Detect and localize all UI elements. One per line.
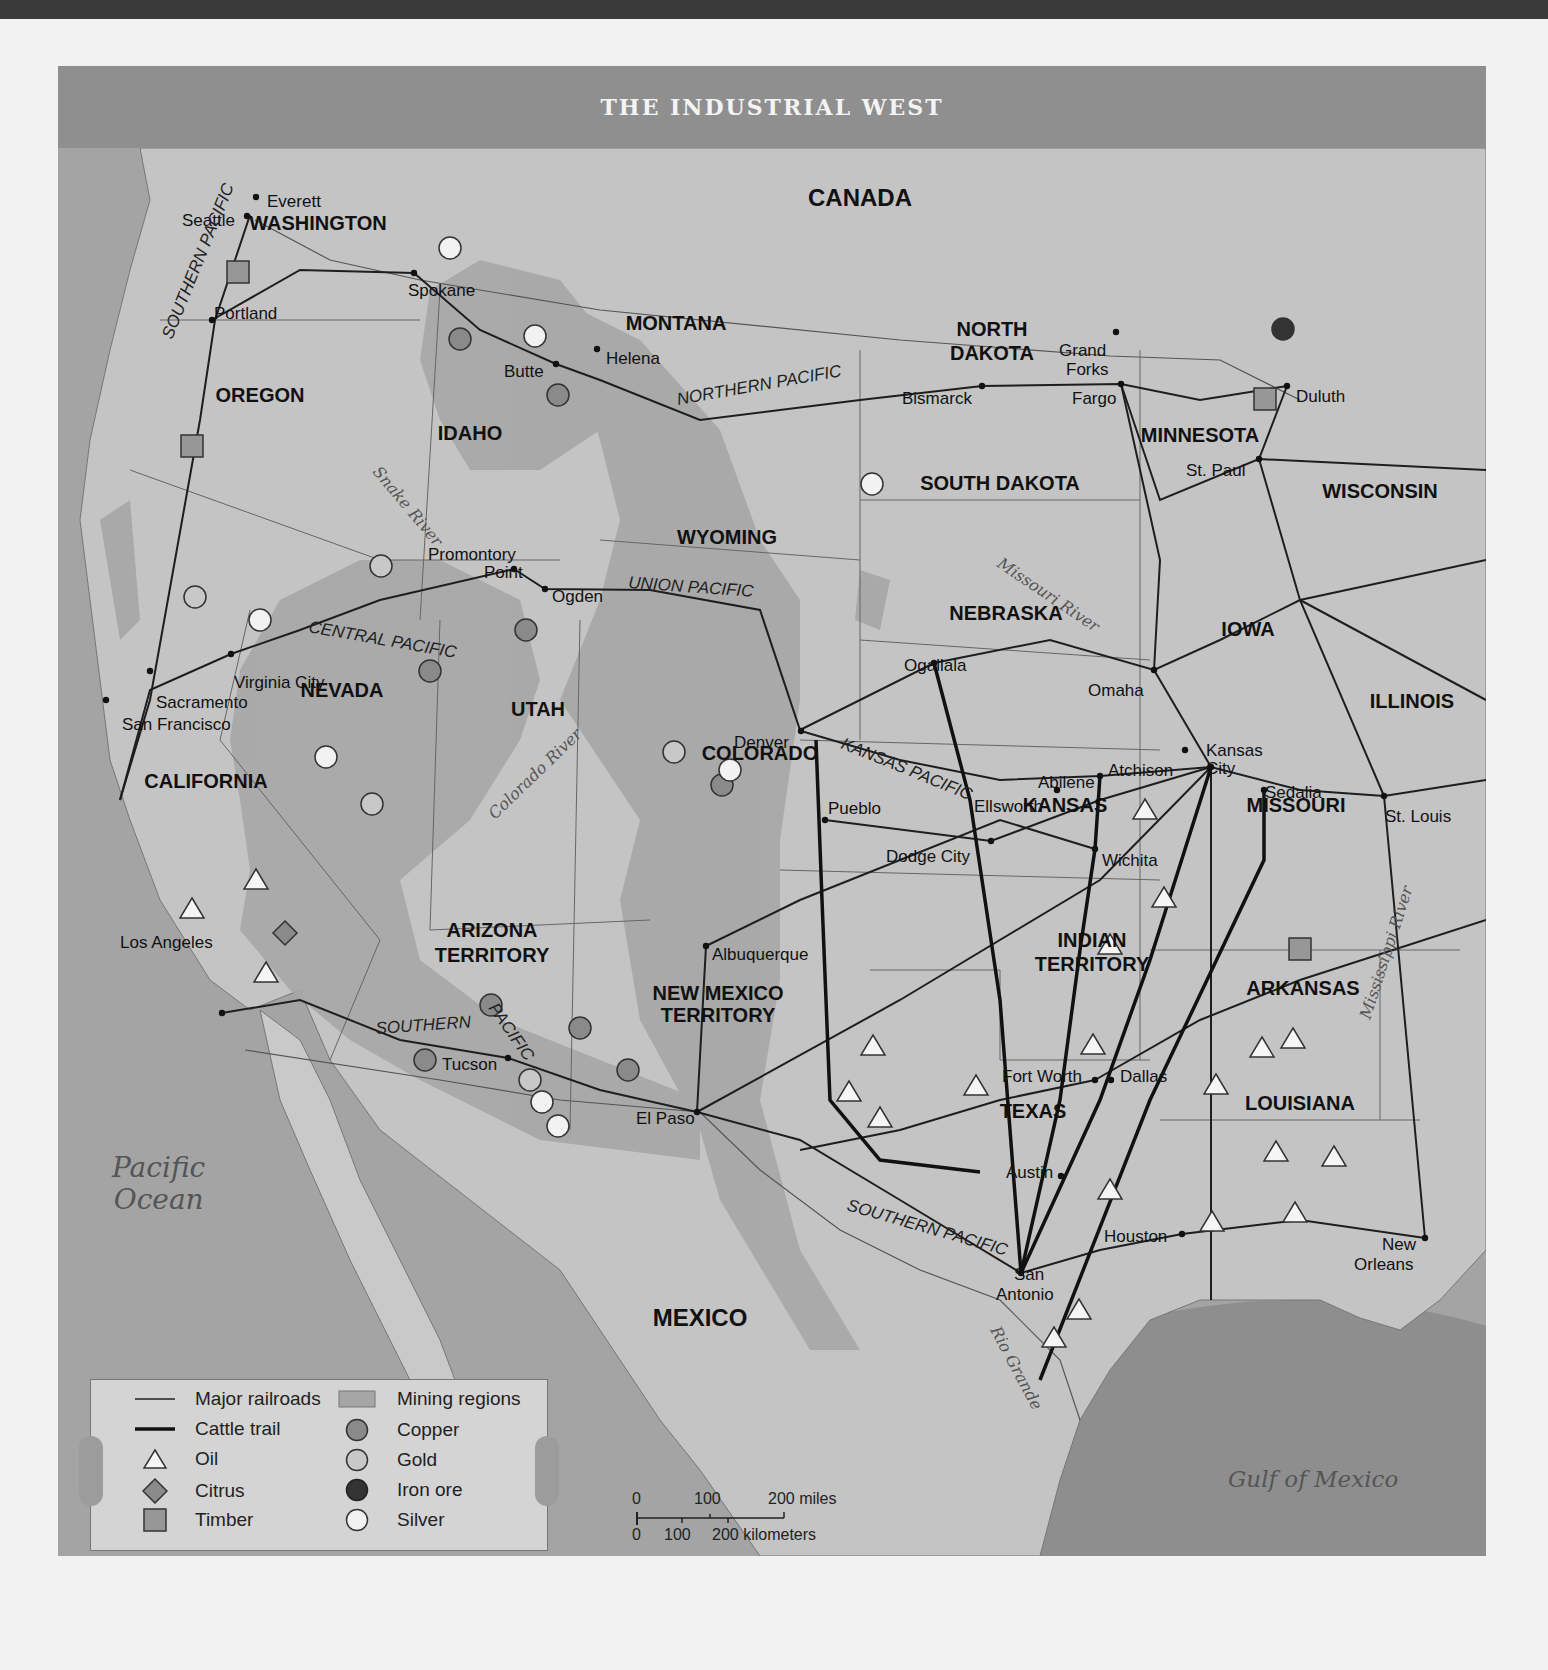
city-dot-icon: [1118, 381, 1124, 387]
gold-circle-icon: [331, 1448, 383, 1472]
city-label: Ogden: [552, 587, 603, 606]
silver-marker-icon: [547, 1115, 569, 1137]
region-label: SOUTH DAKOTA: [920, 472, 1080, 494]
map-title: THE INDUSTRIAL WEST: [600, 94, 943, 120]
city-dot-icon: [253, 194, 259, 200]
city-dot-icon: [103, 697, 109, 703]
region-label: LOUISIANA: [1245, 1092, 1355, 1114]
legend-item-gold: Gold: [331, 1448, 437, 1472]
legend-item-timber: Timber: [129, 1508, 253, 1532]
city-label: Wichita: [1102, 851, 1158, 870]
city-label: Sedalia: [1265, 783, 1322, 802]
city-label: St. Paul: [1186, 461, 1246, 480]
scale-km-100: 100: [664, 1526, 691, 1544]
legend-item-citrus: Citrus: [129, 1478, 245, 1504]
gold-marker-icon: [184, 586, 206, 608]
legend-item-iron-ore: Iron ore: [331, 1478, 462, 1502]
legend-item-cattle-trail: Cattle trail: [129, 1418, 281, 1440]
legend-label: Citrus: [195, 1480, 245, 1502]
city-label: Promontory: [428, 545, 516, 564]
copper-marker-icon: [414, 1049, 436, 1071]
city-dot-icon: [411, 270, 417, 276]
city-label: Austin: [1006, 1163, 1053, 1182]
city-label: Fargo: [1072, 389, 1116, 408]
gold-marker-icon: [361, 793, 383, 815]
region-label: TERRITORY: [435, 944, 550, 966]
mining-swatch-icon: [331, 1390, 383, 1408]
legend-label: Iron ore: [397, 1479, 462, 1501]
silver-marker-icon: [315, 746, 337, 768]
city-label: Tucson: [442, 1055, 497, 1074]
silver-marker-icon: [531, 1091, 553, 1113]
map-title-bar: THE INDUSTRIAL WEST: [58, 66, 1486, 148]
region-label: WISCONSIN: [1322, 480, 1438, 502]
region-label: CANADA: [808, 184, 912, 211]
copper-marker-icon: [419, 660, 441, 682]
legend-label: Gold: [397, 1449, 437, 1471]
city-label: Duluth: [1296, 387, 1345, 406]
iron-ore-marker-icon: [1272, 318, 1294, 340]
city-dot-icon: [228, 651, 234, 657]
city-dot-icon: [219, 1010, 225, 1016]
scale-km-200: 200 kilometers: [712, 1526, 816, 1544]
region-label: TERRITORY: [661, 1004, 776, 1026]
timber-marker-icon: [227, 261, 249, 283]
copper-marker-icon: [449, 328, 471, 350]
city-label: Orleans: [1354, 1255, 1414, 1274]
region-label: NEBRASKA: [949, 602, 1062, 624]
region-label: IOWA: [1221, 618, 1274, 640]
region-label: ARIZONA: [446, 919, 537, 941]
iron-ore-circle-icon: [331, 1478, 383, 1502]
city-dot-icon: [1256, 456, 1262, 462]
region-label: IDAHO: [438, 422, 502, 444]
city-dot-icon: [147, 668, 153, 674]
city-dot-icon: [1284, 383, 1290, 389]
city-dot-icon: [1113, 329, 1119, 335]
legend-label: Silver: [397, 1509, 445, 1531]
silver-circle-icon: [331, 1508, 383, 1532]
city-label: Dallas: [1120, 1067, 1167, 1086]
city-label: Kansas: [1206, 741, 1263, 760]
legend-label: Oil: [195, 1448, 218, 1470]
copper-marker-icon: [515, 619, 537, 641]
region-label: WASHINGTON: [249, 212, 386, 234]
city-label: City: [1206, 759, 1236, 778]
city-label: Bismarck: [902, 389, 972, 408]
scale-miles-200: 200 miles: [768, 1490, 836, 1508]
timber-marker-icon: [1254, 388, 1276, 410]
region-label: ILLINOIS: [1370, 690, 1454, 712]
city-label: El Paso: [636, 1109, 695, 1128]
city-dot-icon: [703, 943, 709, 949]
city-dot-icon: [988, 838, 994, 844]
legend-label: Copper: [397, 1419, 459, 1441]
legend-item-copper: Copper: [331, 1418, 459, 1442]
city-dot-icon: [553, 361, 559, 367]
city-dot-icon: [1092, 1077, 1098, 1083]
city-label: Dodge City: [886, 847, 971, 866]
region-label: DAKOTA: [950, 342, 1034, 364]
copper-marker-icon: [547, 384, 569, 406]
city-dot-icon: [1179, 1231, 1185, 1237]
scale-bar: 0 100 200 miles 0 100 200 kilometers: [632, 1490, 872, 1550]
city-dot-icon: [1422, 1235, 1428, 1241]
city-dot-icon: [694, 1109, 700, 1115]
city-dot-icon: [1092, 846, 1098, 852]
scale-miles-0: 0: [632, 1490, 641, 1508]
map-frame: THE INDUSTRIAL WEST: [58, 66, 1486, 1556]
city-label: Omaha: [1088, 681, 1144, 700]
region-label: TERRITORY: [1035, 953, 1150, 975]
city-label: Spokane: [408, 281, 475, 300]
city-label: Ogallala: [904, 656, 967, 675]
city-label: Antonio: [996, 1285, 1054, 1304]
scale-km-0: 0: [632, 1526, 641, 1544]
legend-item-silver: Silver: [331, 1508, 445, 1532]
region-label: MINNESOTA: [1141, 424, 1260, 446]
city-label: Point: [484, 563, 523, 582]
scale-miles-100: 100: [694, 1490, 721, 1508]
city-label: Everett: [267, 192, 321, 211]
gold-marker-icon: [663, 741, 685, 763]
city-label: Sacramento: [156, 693, 248, 712]
gulf-of-mexico-text: Gulf of Mexico: [1228, 1466, 1398, 1492]
region-label: MEXICO: [653, 1304, 748, 1331]
gold-marker-icon: [370, 555, 392, 577]
